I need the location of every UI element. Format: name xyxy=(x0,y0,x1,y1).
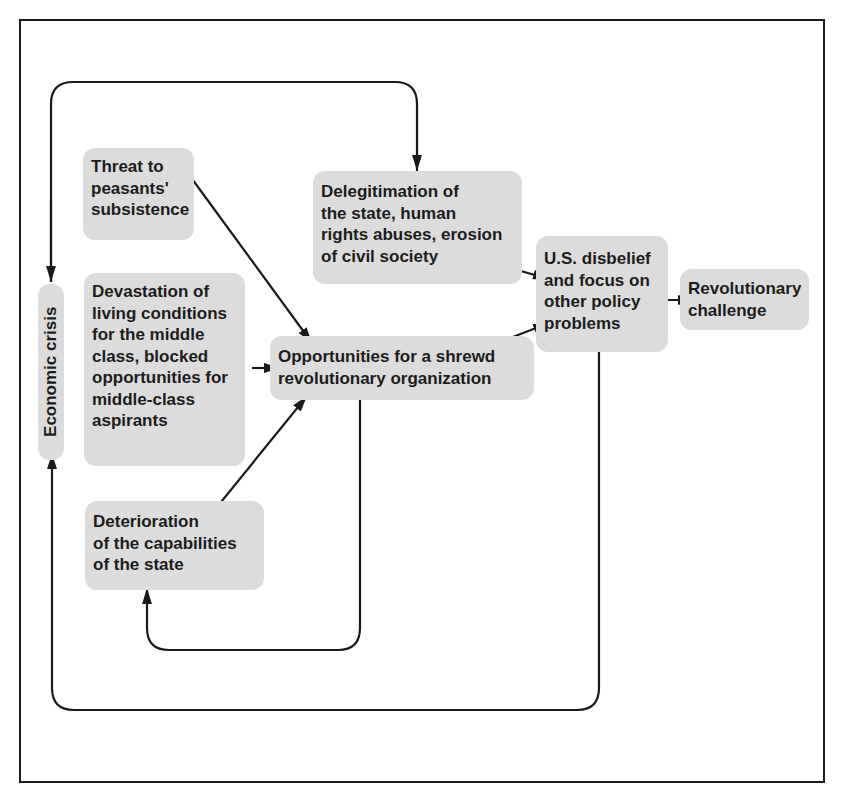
node-threat-to-peasants-subsistence: Threat to peasants' subsistence xyxy=(83,148,194,240)
node-deterioration-of-state-capabilities: Deterioration of the capabilities of the… xyxy=(85,501,264,590)
node-opportunities-for-revolutionary-organization: Opportunities for a shrewd revolutionary… xyxy=(270,336,534,400)
node-economic-crisis: Economic crisis xyxy=(38,284,64,460)
node-us-disbelief: U.S. disbelief and focus on other policy… xyxy=(536,236,668,352)
node-revolutionary-challenge: Revolutionary challenge xyxy=(680,269,809,330)
node-delegitimation-of-state: Delegitimation of the state, human right… xyxy=(313,171,522,284)
node-economic-crisis-label: Economic crisis xyxy=(40,307,62,437)
node-devastation-of-living-conditions: Devastation of living conditions for the… xyxy=(84,273,245,466)
cropped-caption xyxy=(19,800,825,805)
